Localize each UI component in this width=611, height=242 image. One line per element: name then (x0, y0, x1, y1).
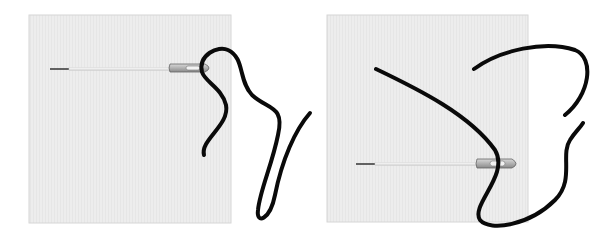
fabric-square (29, 15, 231, 223)
left-panel (29, 15, 310, 223)
fabric-square (327, 15, 528, 222)
right-panel (327, 15, 587, 226)
needle-threading-illustration (0, 0, 611, 242)
